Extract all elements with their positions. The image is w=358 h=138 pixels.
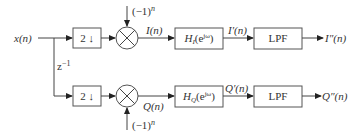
delay-label: z−1 (57, 59, 70, 72)
top-lpf-label: LPF (269, 32, 288, 44)
bottom-output-label: Q″(n) (322, 90, 348, 103)
top-filter-label: HI(ejω) (183, 32, 213, 46)
top-decimator-label: 2 ↓ (80, 32, 94, 44)
bottom-filter-output-label: Q′(n) (225, 82, 249, 95)
top-mixer-input-label: (−1)n (132, 4, 155, 18)
top-output-label: I″(n) (324, 32, 346, 45)
iq-demodulator-diagram: x(n) z−1 2 ↓ (−1)n I(n) HI(ejω) I′(n) LP… (0, 0, 358, 138)
bottom-filter-label: HQ(ejω) (182, 90, 215, 104)
input-label: x(n) (13, 32, 32, 45)
top-mixer-output-label: I(n) (145, 24, 163, 37)
top-mixer-icon (116, 27, 138, 49)
top-filter-output-label: I′(n) (227, 24, 247, 37)
bottom-lpf-label: LPF (269, 90, 288, 102)
bottom-decimator-label: 2 ↓ (80, 90, 94, 102)
bottom-mixer-input-label: (−1)n (132, 118, 155, 132)
bottom-mixer-icon (116, 85, 138, 107)
bottom-mixer-output-label: Q(n) (143, 100, 164, 113)
